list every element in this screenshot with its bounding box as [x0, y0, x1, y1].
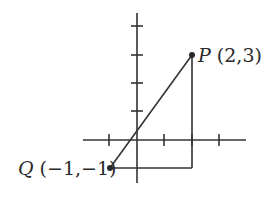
- point-p: [189, 52, 195, 58]
- point-q-coords: (−1,−1): [34, 157, 117, 179]
- point-q-name: Q: [18, 157, 34, 179]
- point-q-label: Q (−1,−1): [18, 157, 117, 179]
- coordinate-diagram: P (2,3) Q (−1,−1): [0, 0, 268, 198]
- point-p-label: P (2,3): [197, 44, 262, 66]
- point-p-name: P: [197, 44, 212, 66]
- point-p-coords: (2,3): [211, 44, 262, 66]
- segment-qp: [110, 55, 192, 168]
